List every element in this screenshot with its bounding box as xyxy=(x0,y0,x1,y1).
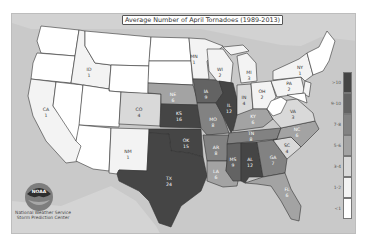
legend-label-5-6: 5-6 xyxy=(334,143,341,148)
label-ca-value: 1 xyxy=(45,113,48,118)
state-wa xyxy=(37,26,79,56)
tornado-map: CA1 ID1 CO4 NM1 NE6 KS16 OK15 TX24 MN1 W… xyxy=(11,13,356,234)
state-mt xyxy=(85,31,151,66)
state-ut xyxy=(79,85,121,127)
legend-label-lt1: <1 xyxy=(335,206,341,211)
legend-swatch-3-4 xyxy=(343,156,352,177)
legend-swatch-7-8 xyxy=(343,114,352,135)
legend-swatch-9-10 xyxy=(343,93,352,114)
state-fl xyxy=(245,173,301,221)
legend-label-7-8: 7-8 xyxy=(334,122,341,127)
us-state-map: CA1 ID1 CO4 NM1 NE6 KS16 OK15 TX24 MN1 W… xyxy=(12,14,356,234)
legend-swatch-gt10 xyxy=(343,72,352,93)
credit-line-2: Storm Prediction Center xyxy=(13,215,73,220)
svg-text:NOAA: NOAA xyxy=(32,189,47,194)
legend-label-gt10: >10 xyxy=(332,80,341,85)
nws-credit: National Weather Service Storm Predictio… xyxy=(13,210,73,220)
label-ca-abbr: CA xyxy=(43,107,50,112)
map-title: Average Number of April Tornadoes (1989-… xyxy=(122,15,283,25)
state-ny xyxy=(273,53,313,81)
svg-text:TX24: TX24 xyxy=(165,176,172,187)
state-or xyxy=(31,53,75,83)
legend-swatch-5-6 xyxy=(343,135,352,156)
state-az xyxy=(76,125,111,171)
legend-label-9-10: 9-10 xyxy=(331,101,341,106)
state-nd xyxy=(149,37,191,61)
legend-swatch-1-2 xyxy=(343,177,352,198)
svg-text:KS16: KS16 xyxy=(176,111,182,122)
legend-label-3-4: 3-4 xyxy=(334,164,341,169)
state-sd xyxy=(148,61,193,85)
svg-text:AL12: AL12 xyxy=(247,157,253,168)
state-wy xyxy=(109,65,149,94)
state-wi xyxy=(207,49,233,83)
noaa-logo-icon: NOAA xyxy=(24,182,54,212)
legend-label-1-2: 1-2 xyxy=(334,185,341,190)
legend-swatch-lt1 xyxy=(343,198,352,219)
